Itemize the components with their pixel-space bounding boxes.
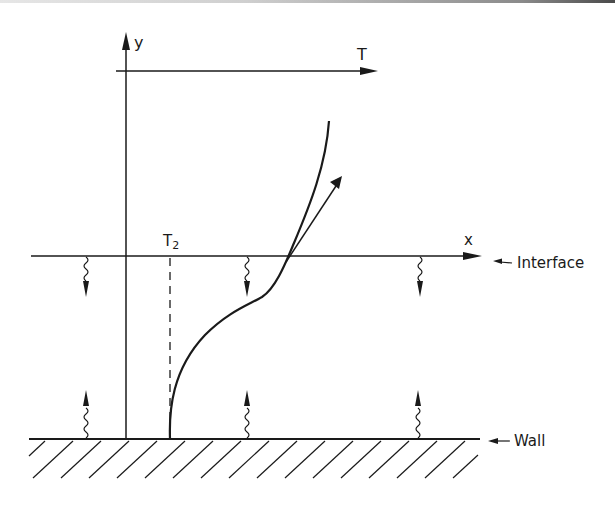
wall-callout <box>488 438 510 444</box>
t-axis-label: T <box>356 45 367 64</box>
left-arrow-icon <box>493 259 502 265</box>
interface-label: Interface <box>517 254 584 272</box>
interface-callout <box>493 259 512 265</box>
up-arrowhead-icon <box>244 390 250 406</box>
up-arrowhead-icon <box>415 390 421 406</box>
down-arrowhead-icon <box>417 281 423 297</box>
down-arrowhead-icon <box>83 281 89 297</box>
x-axis-label: x <box>464 231 473 249</box>
diagram-canvas: y T x T2 <box>0 0 615 505</box>
interface-line <box>31 252 482 260</box>
down-arrowhead-icon <box>244 281 250 297</box>
t2-label: T2 <box>162 232 179 252</box>
up-arrowhead-icon <box>83 390 89 406</box>
heat-flux-down-arrow-1 <box>83 257 89 297</box>
wall-hatching <box>29 441 478 478</box>
heat-flux-down-arrow-3 <box>417 257 423 297</box>
temperature-profile-curve <box>170 121 329 439</box>
t-axis-arrowhead-icon <box>360 67 378 75</box>
heat-flux-up-arrow-3 <box>415 390 421 438</box>
y-axis-label: y <box>134 33 143 52</box>
heat-flux-down-arrow-2 <box>244 257 250 297</box>
left-arrow-icon <box>488 438 498 444</box>
t-axis <box>116 67 378 75</box>
wall-label: Wall <box>514 432 545 450</box>
heat-flux-up-arrow-1 <box>83 390 89 438</box>
x-axis-arrowhead-icon <box>463 252 482 260</box>
y-axis <box>122 32 130 439</box>
y-axis-arrowhead-icon <box>122 32 130 50</box>
heat-flux-up-arrow-2 <box>244 390 250 438</box>
